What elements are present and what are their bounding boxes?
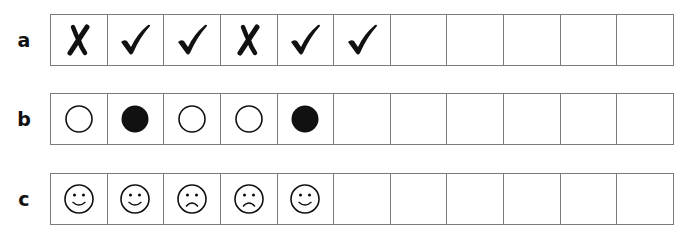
grid-cell bbox=[334, 15, 391, 65]
grid-cell bbox=[51, 15, 108, 65]
grid-cell bbox=[504, 174, 561, 224]
grid-c bbox=[50, 173, 674, 225]
grid-cell bbox=[164, 94, 221, 144]
row-label-a: a bbox=[14, 14, 34, 67]
empty-circle-icon bbox=[177, 104, 207, 134]
grid-cell bbox=[447, 174, 504, 224]
happy-face-icon bbox=[119, 183, 151, 215]
row-b: b bbox=[0, 93, 685, 146]
tick-icon bbox=[345, 22, 379, 58]
grid-cell bbox=[391, 94, 448, 144]
grid-cell bbox=[221, 174, 278, 224]
grid-cell bbox=[51, 94, 108, 144]
grid-cell bbox=[447, 94, 504, 144]
filled-circle-icon bbox=[120, 104, 150, 134]
grid-cell bbox=[334, 174, 391, 224]
grid-cell bbox=[108, 94, 165, 144]
grid-cell bbox=[108, 174, 165, 224]
cross-icon bbox=[235, 23, 263, 57]
row-label-c: c bbox=[14, 173, 34, 226]
empty-circle-icon bbox=[234, 104, 264, 134]
sad-face-icon bbox=[176, 183, 208, 215]
row-label-b: b bbox=[14, 93, 34, 146]
grid-cell bbox=[51, 174, 108, 224]
grid-cell bbox=[561, 15, 618, 65]
grid-cell bbox=[504, 15, 561, 65]
grid-cell bbox=[164, 174, 221, 224]
tick-icon bbox=[288, 22, 322, 58]
sad-face-icon bbox=[233, 183, 265, 215]
tick-icon bbox=[118, 22, 152, 58]
grid-cell bbox=[278, 94, 335, 144]
happy-face-icon bbox=[63, 183, 95, 215]
grid-cell bbox=[617, 94, 673, 144]
grid-cell bbox=[278, 174, 335, 224]
filled-circle-icon bbox=[290, 104, 320, 134]
grid-cell bbox=[561, 174, 618, 224]
row-c: c bbox=[0, 173, 685, 226]
grid-cell bbox=[108, 15, 165, 65]
grid-cell bbox=[447, 15, 504, 65]
empty-circle-icon bbox=[64, 104, 94, 134]
grid-cell bbox=[391, 15, 448, 65]
grid-cell bbox=[391, 174, 448, 224]
happy-face-icon bbox=[289, 183, 321, 215]
grid-cell bbox=[617, 15, 673, 65]
grid-cell bbox=[334, 94, 391, 144]
row-a: a bbox=[0, 14, 685, 67]
grid-b bbox=[50, 93, 674, 145]
tick-icon bbox=[175, 22, 209, 58]
grid-a bbox=[50, 14, 674, 66]
grid-cell bbox=[504, 94, 561, 144]
grid-cell bbox=[561, 94, 618, 144]
grid-cell bbox=[278, 15, 335, 65]
grid-cell bbox=[221, 15, 278, 65]
grid-cell bbox=[617, 174, 673, 224]
cross-icon bbox=[65, 23, 93, 57]
grid-cell bbox=[221, 94, 278, 144]
grid-cell bbox=[164, 15, 221, 65]
